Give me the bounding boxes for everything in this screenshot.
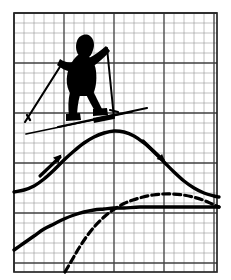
graph-paper-grid	[14, 13, 217, 272]
front-boot	[93, 108, 108, 116]
figure-root	[0, 0, 231, 280]
figure-canvas	[0, 0, 231, 280]
rear-boot	[66, 113, 81, 121]
